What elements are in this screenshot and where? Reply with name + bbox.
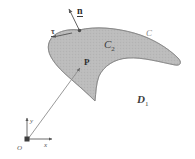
inner-region-label: C2 bbox=[104, 39, 115, 53]
normal-vector-label: n bbox=[77, 6, 83, 17]
outer-region-label: D1 bbox=[137, 94, 148, 108]
axis-x-label: x bbox=[44, 142, 47, 149]
point-p-label: P bbox=[84, 58, 90, 67]
boundary-curve-label: C bbox=[146, 29, 152, 38]
inner-region-subscript: 2 bbox=[111, 45, 115, 53]
outer-region-subscript: 1 bbox=[145, 100, 149, 108]
origin-label: O bbox=[17, 145, 22, 152]
tangent-vector-label: τ bbox=[51, 28, 55, 37]
diagram-canvas bbox=[0, 0, 195, 159]
coordinate-axes bbox=[25, 118, 53, 142]
axis-y-label: y bbox=[30, 118, 33, 125]
position-vector-arrow bbox=[28, 68, 80, 139]
boundary-point-marker bbox=[78, 29, 81, 32]
figure-container: n τ C2 C D1 P y x O bbox=[0, 0, 195, 159]
outer-region-letter: D bbox=[137, 93, 145, 105]
origin-marker bbox=[25, 137, 30, 142]
